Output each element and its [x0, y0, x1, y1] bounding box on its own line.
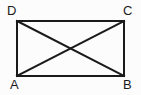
geometry-figure: D C A B [0, 0, 141, 95]
vertex-label-b: B [123, 78, 132, 91]
vertex-label-a: A [10, 78, 19, 91]
vertex-label-d: D [7, 4, 16, 17]
figure-canvas [0, 0, 141, 95]
vertex-label-c: C [123, 4, 132, 17]
